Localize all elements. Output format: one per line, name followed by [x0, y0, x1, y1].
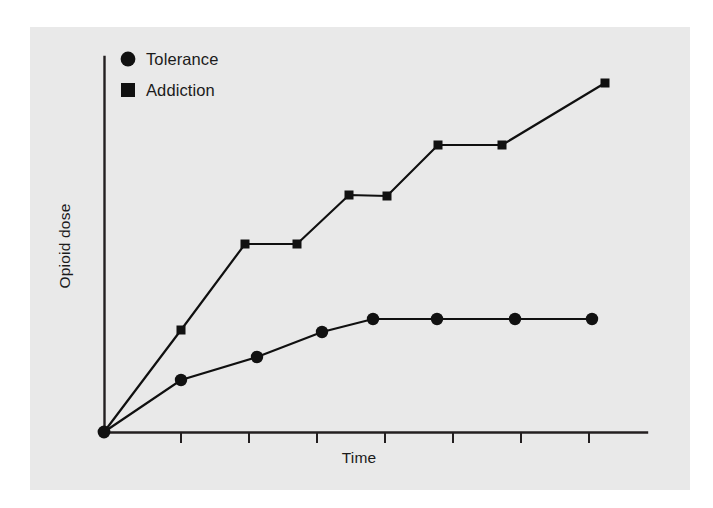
data-point-square [601, 79, 610, 88]
data-point-dot [367, 313, 379, 325]
y-axis-label: Opioid dose [56, 204, 73, 289]
data-point-dot [509, 313, 521, 325]
chart-legend: Tolerance Addiction [121, 50, 219, 99]
chart-plot-area: Tolerance Addiction Time Opioid dose [0, 0, 713, 508]
x-axis-label: Time [342, 449, 377, 466]
data-point-square [345, 191, 354, 200]
legend-label-tolerance: Tolerance [146, 50, 218, 68]
circle-marker-icon [121, 52, 136, 67]
data-point-square [434, 141, 443, 150]
chart-figure: Tolerance Addiction Time Opioid dose [0, 0, 713, 508]
data-point-dot [431, 313, 443, 325]
data-point-square [177, 326, 186, 335]
origin-data-point [98, 426, 111, 439]
data-point-square [241, 240, 250, 249]
data-point-dot [586, 313, 598, 325]
x-axis-ticks [181, 433, 589, 443]
data-point-square [383, 192, 392, 201]
series-markers-tolerance [175, 313, 598, 386]
data-point-square [498, 141, 507, 150]
series-markers-addiction [177, 79, 610, 335]
data-point-dot [316, 326, 328, 338]
data-point-dot [175, 374, 187, 386]
legend-label-addiction: Addiction [146, 81, 215, 99]
square-marker-icon [121, 83, 135, 97]
data-point-dot [251, 351, 263, 363]
data-point-square [293, 240, 302, 249]
